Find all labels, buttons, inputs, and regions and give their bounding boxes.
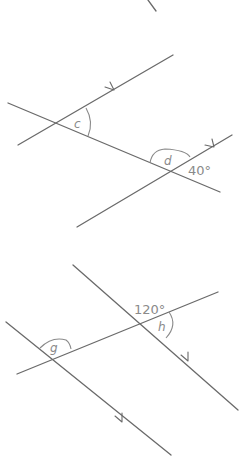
diagram-2: 120° h g: [6, 265, 238, 455]
parallel-lines-figure: c d 40° 120° h g: [0, 0, 248, 461]
angle-c-label: c: [74, 117, 81, 131]
angle-40-label: 40°: [188, 163, 211, 178]
angle-d-label: d: [164, 154, 172, 168]
angle-h-label: h: [158, 320, 166, 334]
parallel-arrow-icon: [181, 352, 188, 361]
parallel-arrow-icon: [105, 82, 114, 90]
angle-g-label: g: [50, 341, 58, 355]
diagram-1: c d 40°: [8, 55, 232, 227]
upper-parallel-line: [18, 55, 173, 145]
partial-top-line: [148, 0, 156, 11]
angle-h-arc: [166, 312, 173, 338]
right-parallel-line: [73, 265, 238, 410]
left-parallel-line: [6, 322, 171, 455]
transversal-line: [8, 103, 220, 192]
angle-120-label: 120°: [134, 302, 165, 317]
lower-parallel-line: [77, 135, 232, 227]
angle-c-arc: [86, 108, 91, 136]
